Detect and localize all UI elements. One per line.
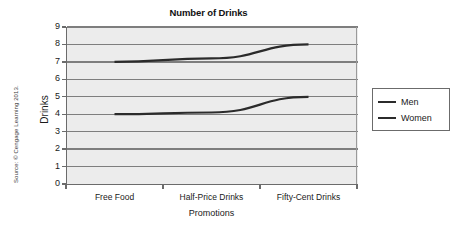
data-series-layer <box>66 27 357 184</box>
x-tick-mark <box>259 184 260 189</box>
y-tick-label: 9 <box>44 21 60 31</box>
legend-item-men[interactable]: Men <box>378 94 449 110</box>
y-tick-label: 2 <box>44 143 60 153</box>
x-axis-category-label: Half-Price Drinks <box>163 192 260 202</box>
y-tick-label: 8 <box>44 38 60 48</box>
legend-line-swatch <box>378 101 396 103</box>
legend-label: Women <box>401 113 432 123</box>
x-axis-title: Promotions <box>66 208 357 218</box>
chart-title: Number of Drinks <box>60 7 357 18</box>
x-axis-category-label: Free Food <box>66 192 163 202</box>
y-tick-label: 1 <box>44 161 60 171</box>
source-credit: Source: © Cengage Learning 2013. <box>13 63 19 183</box>
legend-item-women[interactable]: Women <box>378 110 449 126</box>
y-tick-label: 7 <box>44 56 60 66</box>
series-line-men <box>115 44 309 61</box>
x-tick-mark <box>356 184 357 189</box>
y-tick-label: 6 <box>44 73 60 83</box>
legend-line-swatch <box>378 117 396 119</box>
y-tick-label: 5 <box>44 91 60 101</box>
chart-legend: MenWomen <box>372 88 450 131</box>
y-tick-label: 3 <box>44 126 60 136</box>
x-axis-category-label: Fifty-Cent Drinks <box>260 192 357 202</box>
y-tick-label: 0 <box>44 178 60 188</box>
legend-label: Men <box>401 97 419 107</box>
y-tick-label: 4 <box>44 108 60 118</box>
series-line-women <box>115 97 309 114</box>
chart-figure: Source: © Cengage Learning 2013. Number … <box>0 0 459 237</box>
x-tick-mark <box>65 184 66 189</box>
x-tick-mark <box>162 184 163 189</box>
